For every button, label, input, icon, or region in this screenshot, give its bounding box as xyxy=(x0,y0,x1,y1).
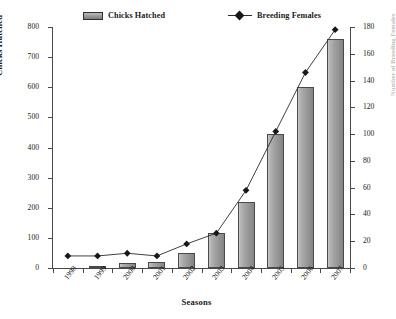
y-right-tick xyxy=(350,214,355,215)
line-marker-1999 xyxy=(94,253,101,260)
x-tick xyxy=(291,268,292,273)
line-marker-2001 xyxy=(154,253,161,260)
y-left-tick xyxy=(48,208,53,209)
y-left-tick xyxy=(48,117,53,118)
line-marker-2002 xyxy=(183,241,190,248)
y-axis-right-title: Number of Breeding Females xyxy=(389,14,396,96)
y-axis-left-title: Chicks Hatched xyxy=(0,15,4,76)
y-left-tick xyxy=(48,87,53,88)
y-right-tick-label: 0 xyxy=(363,264,387,272)
y-right-tick xyxy=(350,54,355,55)
y-left-tick-label: 100 xyxy=(13,234,39,242)
y-left-tick xyxy=(48,27,53,28)
x-axis-title: Seasons xyxy=(0,297,393,307)
x-tick xyxy=(320,268,321,273)
y-left-tick xyxy=(48,238,53,239)
y-right-tick-label: 20 xyxy=(363,237,387,245)
x-tick xyxy=(172,268,173,273)
y-left-tick-label: 0 xyxy=(13,264,39,272)
y-right-tick-label: 100 xyxy=(363,130,387,138)
x-tick xyxy=(202,268,203,273)
y-right-tick-label: 40 xyxy=(363,210,387,218)
y-right-tick xyxy=(350,27,355,28)
legend-label-breeding-females: Breeding Females xyxy=(257,11,321,20)
y-right-tick-label: 160 xyxy=(363,50,387,58)
line-marker-2000 xyxy=(124,250,131,257)
y-right-tick xyxy=(350,188,355,189)
x-tick xyxy=(83,268,84,273)
legend-diamond-marker-icon xyxy=(228,11,252,20)
plot-area: 0100200300400500600700800 02040608010012… xyxy=(52,27,351,269)
y-left-tick-label: 300 xyxy=(13,174,39,182)
y-right-tick-label: 180 xyxy=(363,23,387,31)
y-right-tick-label: 120 xyxy=(363,103,387,111)
y-right-tick xyxy=(350,161,355,162)
y-right-tick-label: 60 xyxy=(363,184,387,192)
line-marker-2006 xyxy=(302,69,309,76)
legend-swatch-bar-icon xyxy=(83,12,103,20)
y-left-tick xyxy=(48,57,53,58)
y-right-tick-label: 80 xyxy=(363,157,387,165)
line-marker-2003 xyxy=(213,230,220,237)
y-left-tick xyxy=(48,178,53,179)
x-tick xyxy=(112,268,113,273)
line-marker-2005 xyxy=(272,128,279,135)
x-tick xyxy=(350,268,351,273)
y-left-tick-label: 800 xyxy=(13,23,39,31)
line-marker-2004 xyxy=(243,187,250,194)
line-series-breeding-females xyxy=(53,27,350,268)
x-tick xyxy=(231,268,232,273)
y-left-tick-label: 200 xyxy=(13,204,39,212)
y-right-tick-label: 140 xyxy=(363,77,387,85)
legend-label-chicks-hatched: Chicks Hatched xyxy=(108,11,165,20)
y-left-tick-label: 700 xyxy=(13,53,39,61)
x-tick xyxy=(142,268,143,273)
legend-item-breeding-females: Breeding Females xyxy=(228,11,321,20)
line-marker-1998 xyxy=(64,253,71,260)
y-right-tick xyxy=(350,241,355,242)
y-left-tick-label: 600 xyxy=(13,83,39,91)
y-left-tick-label: 500 xyxy=(13,113,39,121)
legend-item-chicks-hatched: Chicks Hatched xyxy=(83,11,165,20)
y-left-tick-label: 400 xyxy=(13,144,39,152)
line-marker-2007 xyxy=(332,26,339,33)
x-tick xyxy=(261,268,262,273)
y-right-tick xyxy=(350,134,355,135)
x-tick xyxy=(53,268,54,273)
y-right-tick xyxy=(350,81,355,82)
y-right-tick xyxy=(350,107,355,108)
y-left-tick xyxy=(48,148,53,149)
